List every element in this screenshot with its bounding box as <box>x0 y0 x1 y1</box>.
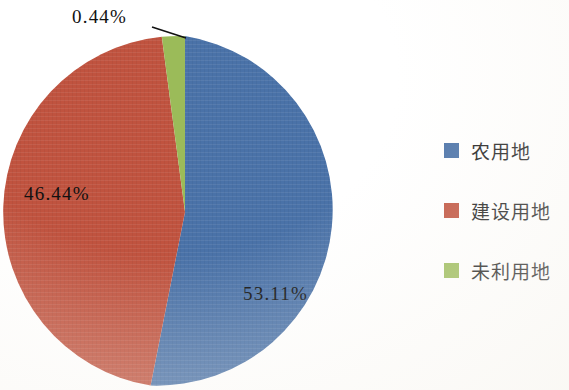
slice-value-construction-land: 46.44% <box>24 183 90 205</box>
legend-swatch-unused-land <box>444 263 459 278</box>
legend-item-construction-land[interactable]: 建设用地 <box>444 180 569 240</box>
legend-swatch-agricultural-land <box>444 143 459 158</box>
legend-item-agricultural-land[interactable]: 农用地 <box>444 120 569 180</box>
legend-swatch-construction-land <box>444 203 459 218</box>
legend-label-construction-land: 建设用地 <box>471 197 551 224</box>
legend: 农用地 建设用地 未利用地 <box>444 120 569 300</box>
slice-value-unused-land: 0.44% <box>72 6 127 28</box>
pie-slice-construction-texture <box>3 37 185 386</box>
legend-label-unused-land: 未利用地 <box>471 257 551 284</box>
pie-chart: 53.11% 46.44% 0.44% 农用地 建设用地 未利用地 <box>0 0 569 390</box>
legend-item-unused-land[interactable]: 未利用地 <box>444 240 569 300</box>
slice-value-agricultural-land: 53.11% <box>243 283 308 305</box>
legend-label-agricultural-land: 农用地 <box>471 137 531 164</box>
